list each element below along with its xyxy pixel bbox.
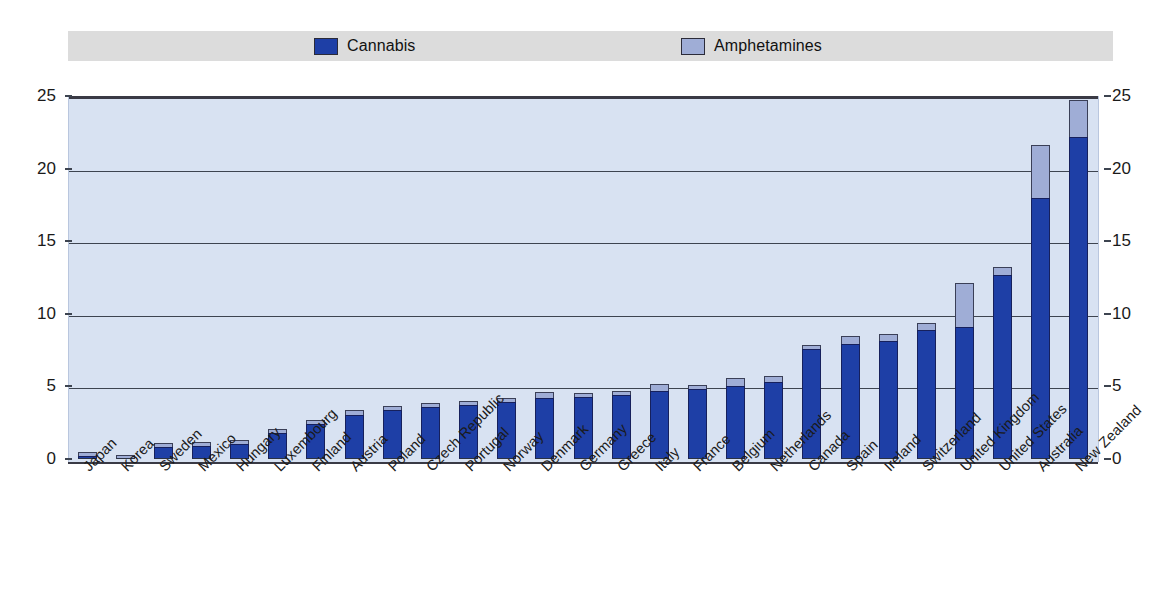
y-tick-left-10: 10: [10, 305, 56, 322]
legend-swatch-cannabis-icon: [314, 38, 338, 55]
y-tick-right-25: 25: [1112, 87, 1158, 104]
bar-segment-amphetamines: [1069, 100, 1088, 136]
y-tick-mark-right-20: [1104, 168, 1111, 170]
y-tick-mark-right-15: [1104, 240, 1111, 242]
y-tick-left-5: 5: [10, 377, 56, 394]
y-tick-right-20: 20: [1112, 160, 1158, 177]
bar-canada[interactable]: [802, 96, 821, 459]
plot-right-edge: [1098, 96, 1099, 462]
bar-france[interactable]: [688, 96, 707, 459]
bar-segment-amphetamines: [917, 323, 936, 330]
y-tick-mark-left-5: [65, 385, 72, 387]
legend-swatch-amphetamines-icon: [681, 38, 705, 55]
bar-luxembourg[interactable]: [268, 96, 287, 459]
bar-segment-amphetamines: [650, 384, 669, 391]
legend-label-cannabis: Cannabis: [347, 37, 415, 55]
y-tick-left-20: 20: [10, 160, 56, 177]
bar-denmark[interactable]: [535, 96, 554, 459]
bar-poland[interactable]: [383, 96, 402, 459]
y-tick-right-10: 10: [1112, 305, 1158, 322]
bar-segment-amphetamines: [993, 267, 1012, 274]
y-axis-right: 2520151050: [1112, 0, 1158, 600]
bar-segment-amphetamines: [955, 283, 974, 327]
bar-sweden[interactable]: [154, 96, 173, 459]
bar-greece[interactable]: [612, 96, 631, 459]
x-axis-category-labels: JapanKoreaSwedenMexicoHungaryLuxembourgF…: [68, 463, 1098, 598]
bar-austria[interactable]: [345, 96, 364, 459]
y-tick-mark-left-10: [65, 313, 72, 315]
chart-container: Cannabis Amphetamines 2520151050 2520151…: [0, 0, 1175, 600]
bar-netherlands[interactable]: [764, 96, 783, 459]
bar-segment-cannabis: [1069, 137, 1088, 459]
y-tick-left-25: 25: [10, 87, 56, 104]
bar-segment-amphetamines: [841, 336, 860, 345]
y-tick-right-15: 15: [1112, 232, 1158, 249]
bar-belgium[interactable]: [726, 96, 745, 459]
bar-italy[interactable]: [650, 96, 669, 459]
y-tick-mark-right-10: [1104, 313, 1111, 315]
bar-ireland[interactable]: [879, 96, 898, 459]
bar-czech-republic[interactable]: [421, 96, 440, 459]
y-tick-left-0: 0: [10, 450, 56, 467]
y-tick-left-15: 15: [10, 232, 56, 249]
y-tick-right-5: 5: [1112, 377, 1158, 394]
y-tick-mark-right-25: [1104, 95, 1111, 97]
y-axis-left: 2520151050: [10, 0, 56, 600]
bar-united-kingdom[interactable]: [955, 96, 974, 459]
y-tick-mark-left-0: [65, 458, 72, 460]
bar-germany[interactable]: [574, 96, 593, 459]
bar-mexico[interactable]: [192, 96, 211, 459]
bar-new-zealand[interactable]: [1069, 96, 1088, 459]
bar-japan[interactable]: [78, 96, 97, 459]
y-tick-mark-left-15: [65, 240, 72, 242]
legend-item-amphetamines: Amphetamines: [681, 37, 822, 55]
y-tick-mark-left-20: [65, 168, 72, 170]
y-tick-right-0: 0: [1112, 450, 1158, 467]
bars-layer: [68, 96, 1098, 459]
y-tick-mark-right-0: [1104, 458, 1111, 460]
bar-switzerland[interactable]: [917, 96, 936, 459]
bar-segment-cannabis: [879, 341, 898, 459]
bar-finland[interactable]: [306, 96, 325, 459]
legend-item-cannabis: Cannabis: [314, 37, 415, 55]
bar-segment-amphetamines: [726, 378, 745, 387]
y-tick-mark-right-5: [1104, 385, 1111, 387]
chart-legend: Cannabis Amphetamines: [68, 31, 1113, 61]
legend-label-amphetamines: Amphetamines: [714, 37, 822, 55]
y-tick-mark-left-25: [65, 95, 72, 97]
bar-segment-amphetamines: [879, 334, 898, 341]
bar-segment-amphetamines: [1031, 145, 1050, 197]
bar-korea[interactable]: [116, 96, 135, 459]
bar-hungary[interactable]: [230, 96, 249, 459]
bar-united-states[interactable]: [993, 96, 1012, 459]
bar-spain[interactable]: [841, 96, 860, 459]
bar-portugal[interactable]: [459, 96, 478, 459]
